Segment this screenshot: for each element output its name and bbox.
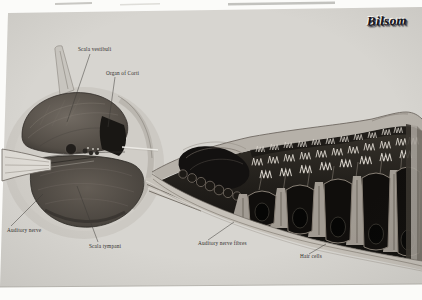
label-scala-tympani: Scala tympani (89, 243, 121, 249)
bilsom-logo: Bilsom (367, 13, 407, 30)
scanned-page: Scala vestibuli Organ of Corti Auditory … (0, 0, 422, 300)
label-scala-vestibuli: Scala vestibuli (78, 46, 112, 52)
anatomy-figure: Scala vestibuli Organ of Corti Auditory … (0, 0, 422, 300)
label-hair-cells: Hair cells (300, 253, 322, 259)
label-auditory-nerve-fibres: Auditory nerve fibres (198, 240, 247, 246)
page-top-edge-marks (55, 2, 335, 6)
label-auditory-nerve: Auditory nerve (7, 227, 42, 233)
label-organ-of-corti: Organ of Corti (106, 70, 140, 76)
